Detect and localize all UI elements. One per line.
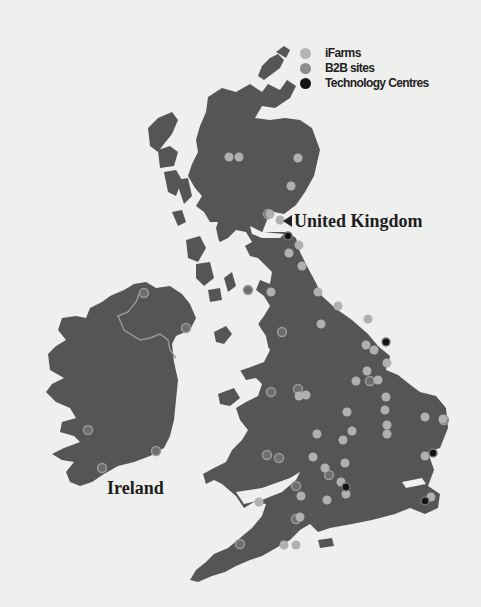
- technology-centre-marker: [284, 232, 292, 240]
- ifarm-marker: [439, 415, 448, 424]
- ifarm-marker: [309, 453, 318, 462]
- ifarm-marker: [280, 541, 289, 550]
- ifarm-marker: [370, 346, 379, 355]
- ifarm-marker: [225, 153, 234, 162]
- b2b-site-marker: [244, 286, 253, 295]
- technology-centre-marker: [342, 483, 350, 491]
- legend-label: Technology Centres: [325, 76, 429, 90]
- ireland-label: Ireland: [107, 478, 164, 499]
- ifarm-marker: [266, 210, 275, 219]
- legend: iFarms B2B sites Technology Centres: [300, 46, 429, 91]
- ifarm-marker: [297, 492, 306, 501]
- mid-circle-icon: [300, 63, 311, 74]
- ifarm-marker: [363, 367, 372, 376]
- ifarm-marker: [383, 430, 392, 439]
- ifarm-marker: [374, 376, 383, 385]
- ifarm-marker: [235, 153, 244, 162]
- ifarm-marker: [421, 413, 430, 422]
- ifarm-marker: [287, 182, 296, 191]
- technology-centre-marker: [429, 449, 437, 457]
- ifarm-marker: [364, 315, 373, 324]
- ifarm-marker: [323, 496, 332, 505]
- dark-circle-icon: [300, 78, 311, 89]
- ifarm-marker: [296, 513, 305, 522]
- legend-item-b2b-sites: B2B sites: [300, 61, 429, 75]
- ifarm-marker: [421, 452, 430, 461]
- ifarm-marker: [334, 302, 343, 311]
- ifarm-marker: [295, 241, 304, 250]
- b2b-site-marker: [366, 377, 375, 386]
- legend-label: B2B sites: [325, 61, 374, 75]
- b2b-site-marker: [275, 454, 284, 463]
- uk-label: United Kingdom: [294, 211, 423, 232]
- legend-item-ifarms: iFarms: [300, 46, 429, 60]
- hebrides-landmass: [148, 112, 178, 152]
- ifarm-marker: [383, 359, 392, 368]
- ifarm-marker: [382, 393, 391, 402]
- b2b-site-marker: [236, 540, 245, 549]
- b2b-site-marker: [84, 426, 93, 435]
- ifarm-marker: [321, 464, 330, 473]
- technology-centre-marker: [421, 497, 429, 505]
- ireland-landmass: [46, 282, 196, 486]
- ifarm-marker: [313, 430, 322, 439]
- legend-label: iFarms: [325, 46, 361, 60]
- ifarm-marker: [294, 154, 303, 163]
- ifarm-marker: [285, 249, 294, 258]
- light-circle-icon: [300, 48, 311, 59]
- ifarm-marker: [298, 262, 307, 271]
- map: United Kingdom Ireland iFarms B2B sites …: [0, 0, 481, 607]
- ifarm-marker: [383, 421, 392, 430]
- ifarm-marker: [343, 408, 352, 417]
- ifarm-marker: [292, 541, 301, 550]
- ifarm-marker: [314, 288, 323, 297]
- b2b-site-marker: [152, 447, 161, 456]
- ifarm-marker: [339, 436, 348, 445]
- b2b-site-marker: [278, 328, 287, 337]
- ifarm-marker: [362, 341, 371, 350]
- b2b-site-marker: [263, 451, 272, 460]
- ifarm-marker: [302, 391, 311, 400]
- ifarm-marker: [348, 427, 357, 436]
- technology-centre-marker: [382, 338, 390, 346]
- legend-item-technology-centres: Technology Centres: [300, 76, 429, 90]
- b2b-site-marker: [292, 482, 301, 491]
- ifarm-marker: [352, 377, 361, 386]
- b2b-site-marker: [140, 289, 149, 298]
- ifarm-marker: [341, 459, 350, 468]
- b2b-site-marker: [182, 324, 191, 333]
- ifarm-marker: [381, 406, 390, 415]
- ifarm-marker: [267, 288, 276, 297]
- ifarm-marker: [255, 498, 264, 507]
- map-canvas: [0, 0, 481, 607]
- b2b-site-marker: [267, 388, 276, 397]
- ifarm-marker: [317, 320, 326, 329]
- uk-label-pointer: [283, 215, 292, 227]
- b2b-site-marker: [98, 464, 107, 473]
